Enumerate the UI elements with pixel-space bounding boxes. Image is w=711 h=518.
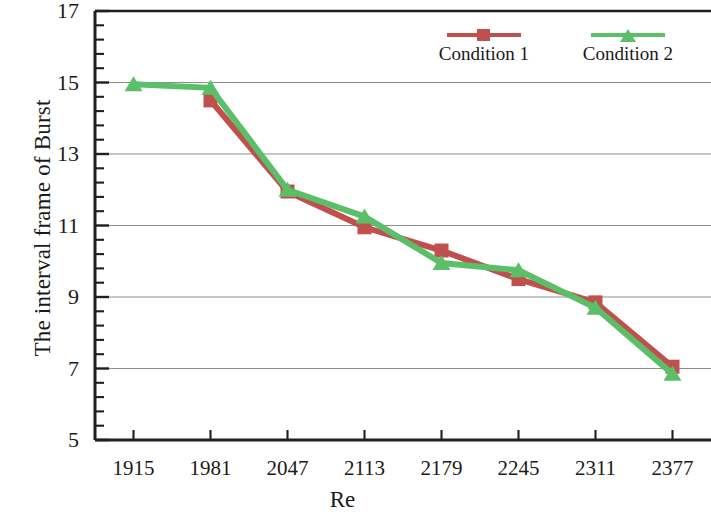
- y-axis-title: The interval frame of Burst: [30, 28, 56, 428]
- legend-swatch-condition-1: [447, 28, 521, 42]
- legend-swatch-condition-2: [591, 28, 665, 42]
- x-tick-label: 1981: [171, 458, 251, 479]
- legend-entry-condition-1: Condition 1: [420, 28, 548, 65]
- x-tick-label: 2047: [248, 458, 328, 479]
- x-tick-label: 2377: [633, 458, 711, 479]
- legend-label-condition-1: Condition 1: [439, 44, 529, 65]
- legend-entry-condition-2: Condition 2: [564, 28, 692, 65]
- x-tick-label: 2245: [479, 458, 559, 479]
- x-axis-title: Re: [95, 487, 590, 513]
- chart-figure: 57911131517 1915198120472113217922452311…: [0, 0, 711, 518]
- legend-label-condition-2: Condition 2: [583, 44, 673, 65]
- x-tick-label: 2179: [402, 458, 482, 479]
- x-tick-label: 1915: [94, 458, 174, 479]
- x-tick-label: 2311: [556, 458, 636, 479]
- legend-square-marker-icon: [477, 29, 490, 41]
- legend: Condition 1 Condition 2: [420, 28, 692, 78]
- legend-triangle-marker-icon: [620, 29, 636, 42]
- x-tick-label: 2113: [325, 458, 405, 479]
